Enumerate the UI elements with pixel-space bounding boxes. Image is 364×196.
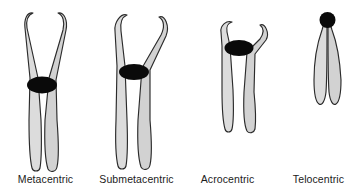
chromosome-submetacentric (115, 15, 168, 170)
submetacentric-left-chromatid (115, 15, 128, 169)
label-telocentric: Telocentric (273, 172, 364, 188)
label-metacentric: Metacentric (0, 172, 91, 188)
telocentric-centromere (320, 12, 336, 28)
acrocentric-left-chromatid (221, 22, 234, 132)
submetacentric-right-chromatid (138, 17, 168, 170)
chromosome-acrocentric (221, 22, 268, 133)
acrocentric-right-chromatid (244, 25, 268, 133)
label-acrocentric: Acrocentric (182, 172, 273, 188)
chromosome-telocentric (314, 12, 341, 104)
telocentric-left-chromatid (314, 20, 327, 104)
label-submetacentric: Submetacentric (91, 172, 182, 188)
chromosome-type-diagram: Metacentric Submetacentric Acrocentric T… (0, 0, 364, 196)
chromosome-label-row: Metacentric Submetacentric Acrocentric T… (0, 172, 364, 188)
chromosome-metacentric (25, 13, 67, 172)
acrocentric-centromere (225, 40, 254, 56)
submetacentric-centromere (119, 64, 149, 80)
metacentric-centromere (27, 77, 57, 94)
chromosome-illustration (0, 0, 364, 196)
telocentric-right-chromatid (328, 20, 341, 104)
